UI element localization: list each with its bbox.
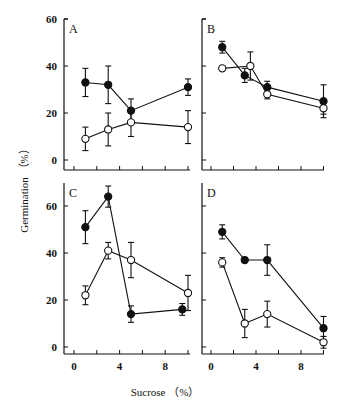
y-tick-label: 0: [52, 154, 58, 166]
panel-b: B: [202, 19, 327, 170]
series-line-open: [85, 122, 188, 138]
x-tick-label: 0: [208, 360, 214, 372]
open-circle-marker: [241, 320, 248, 327]
x-tick-label: 4: [253, 360, 259, 372]
series-line-open: [222, 66, 323, 108]
open-circle-marker: [127, 119, 134, 126]
filled-circle-marker: [184, 84, 191, 91]
filled-circle-marker: [82, 224, 89, 231]
panel-a: 0204060A: [46, 13, 192, 170]
series-line-open: [85, 251, 188, 296]
open-circle-marker: [219, 65, 226, 72]
open-circle-marker: [264, 311, 271, 318]
open-circle-marker: [264, 91, 271, 98]
panel-c: 0204060048C: [46, 183, 192, 372]
open-circle-marker: [105, 126, 112, 133]
x-tick-label: 4: [117, 360, 123, 372]
figure: 0204060AB0204060048C048D Germination （%）…: [0, 0, 346, 413]
y-tick-label: 40: [46, 60, 58, 72]
filled-circle-marker: [179, 306, 186, 313]
open-circle-marker: [184, 289, 191, 296]
series-line-filled: [222, 232, 323, 328]
panel-letter: A: [69, 22, 78, 36]
open-circle-marker: [82, 135, 89, 142]
series-line-filled: [85, 197, 182, 315]
filled-circle-marker: [241, 256, 248, 263]
panel-letter: B: [207, 22, 215, 36]
open-circle-marker: [320, 339, 327, 346]
y-axis-title: Germination （%）: [18, 143, 30, 233]
open-circle-marker: [184, 124, 191, 131]
filled-circle-marker: [264, 256, 271, 263]
filled-circle-marker: [320, 325, 327, 332]
filled-circle-marker: [219, 228, 226, 235]
x-axis-title: Sucrose （%）: [131, 386, 200, 398]
filled-circle-marker: [127, 311, 134, 318]
open-circle-marker: [320, 105, 327, 112]
y-tick-label: 20: [46, 294, 58, 306]
x-tick-label: 8: [162, 360, 168, 372]
panel-letter: C: [69, 186, 77, 200]
panel-letter: D: [207, 186, 216, 200]
series-line-open: [222, 262, 323, 342]
y-tick-label: 40: [46, 247, 58, 259]
y-tick-label: 0: [52, 341, 58, 353]
filled-circle-marker: [82, 79, 89, 86]
open-circle-marker: [247, 62, 254, 69]
series-line-filled: [85, 82, 188, 110]
open-circle-marker: [127, 256, 134, 263]
y-tick-label: 20: [46, 107, 58, 119]
filled-circle-marker: [105, 81, 112, 88]
y-tick-label: 60: [46, 200, 58, 212]
open-circle-marker: [105, 247, 112, 254]
series-line-filled: [222, 47, 323, 101]
x-tick-label: 8: [298, 360, 304, 372]
filled-circle-marker: [219, 44, 226, 51]
open-circle-marker: [219, 259, 226, 266]
filled-circle-marker: [241, 72, 248, 79]
x-tick-label: 0: [71, 360, 77, 372]
open-circle-marker: [82, 292, 89, 299]
filled-circle-marker: [105, 193, 112, 200]
panel-d: 048D: [202, 183, 327, 372]
y-tick-label: 60: [46, 13, 58, 25]
